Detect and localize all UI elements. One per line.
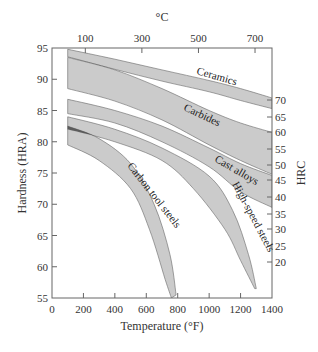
- y2-tick-label: 60: [275, 126, 287, 138]
- y2-tick-label: 35: [275, 208, 287, 220]
- x-tick-label: 0: [49, 303, 55, 315]
- x2-tick-label: 500: [190, 32, 207, 44]
- y-tick-label: 55: [37, 292, 49, 304]
- x-tick-label: 200: [75, 303, 92, 315]
- x2-tick-label: 300: [134, 32, 151, 44]
- y-tick-label: 80: [37, 136, 49, 148]
- x-tick-label: 800: [169, 303, 186, 315]
- y2-tick-label: 30: [275, 223, 287, 235]
- y-tick-label: 95: [37, 42, 49, 54]
- y2-tick-label: 50: [275, 159, 287, 171]
- hardness-temperature-chart: 0200400600800100012001400556065707580859…: [0, 0, 318, 352]
- y-tick-label: 75: [37, 167, 49, 179]
- y-tick-label: 65: [37, 230, 49, 242]
- y2-tick-label: 65: [275, 111, 287, 123]
- y2-tick-label: 40: [275, 191, 287, 203]
- right-axis-title: HRC: [294, 161, 308, 186]
- y2-tick-label: 45: [275, 174, 287, 186]
- y2-tick-label: 55: [275, 143, 287, 155]
- x-tick-label: 1200: [230, 303, 253, 315]
- top-axis-title: °C: [156, 10, 169, 24]
- y-tick-label: 70: [37, 198, 49, 210]
- y-tick-label: 85: [37, 105, 49, 117]
- x2-tick-label: 700: [247, 32, 264, 44]
- x-tick-label: 1400: [261, 303, 284, 315]
- x-tick-label: 400: [107, 303, 124, 315]
- y-tick-label: 90: [37, 73, 49, 85]
- x-tick-label: 600: [138, 303, 155, 315]
- x-tick-label: 1000: [198, 303, 221, 315]
- left-axis-title: Hardness (HRA): [15, 133, 29, 214]
- y2-tick-label: 70: [275, 94, 287, 106]
- y2-tick-label: 20: [275, 256, 287, 268]
- y-tick-label: 60: [37, 261, 49, 273]
- bottom-axis-title: Temperature (°F): [121, 319, 204, 333]
- x2-tick-label: 100: [77, 32, 94, 44]
